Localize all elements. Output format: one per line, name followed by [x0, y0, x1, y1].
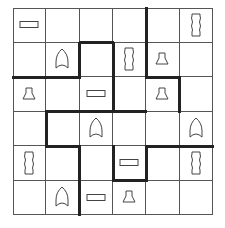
- grid-cell[interactable]: [180, 146, 213, 181]
- bar-icon: [86, 193, 106, 202]
- grid-cell[interactable]: [146, 112, 179, 147]
- bell-icon: [121, 189, 137, 205]
- grid-cell[interactable]: [113, 77, 146, 112]
- grid-cell[interactable]: [80, 146, 113, 181]
- grid-cell[interactable]: [80, 112, 113, 147]
- grid-cell[interactable]: [146, 43, 179, 78]
- region-border: [45, 110, 80, 113]
- grid-cell[interactable]: [46, 8, 79, 43]
- region-border: [78, 180, 81, 217]
- scroll-icon: [23, 151, 35, 175]
- grid-cell[interactable]: [113, 43, 146, 78]
- grid-cell[interactable]: [46, 146, 79, 181]
- grid-cell[interactable]: [13, 43, 46, 78]
- grid-cell[interactable]: [80, 8, 113, 43]
- region-border: [145, 145, 148, 182]
- arch-icon: [188, 117, 204, 139]
- region-border: [145, 145, 180, 148]
- scroll-icon: [190, 151, 202, 175]
- grid-cell[interactable]: [46, 77, 79, 112]
- region-border: [178, 76, 181, 113]
- region-border: [179, 145, 214, 148]
- grid-cell[interactable]: [46, 112, 79, 147]
- grid-cell[interactable]: [46, 181, 79, 216]
- region-border: [145, 7, 148, 44]
- region-border: [112, 110, 147, 113]
- region-border: [112, 145, 115, 182]
- grid-cell[interactable]: [13, 112, 46, 147]
- region-border: [45, 76, 80, 79]
- arch-icon: [54, 48, 70, 70]
- grid-cell[interactable]: [13, 8, 46, 43]
- grid-cell[interactable]: [146, 181, 179, 216]
- region-border: [79, 110, 114, 113]
- grid-cell[interactable]: [13, 146, 46, 181]
- region-border: [145, 76, 180, 79]
- bell-icon: [154, 86, 170, 102]
- region-border: [78, 145, 81, 182]
- grid-cell[interactable]: [180, 77, 213, 112]
- grid-cell[interactable]: [146, 8, 179, 43]
- puzzle-board: [13, 8, 213, 215]
- region-border: [78, 42, 81, 79]
- grid-cell[interactable]: [80, 43, 113, 78]
- bar-icon: [119, 158, 139, 167]
- grid-cell[interactable]: [180, 43, 213, 78]
- region-border: [112, 179, 147, 182]
- region-border: [45, 145, 80, 148]
- grid-cell[interactable]: [180, 181, 213, 216]
- bell-icon: [21, 86, 37, 102]
- region-border: [12, 76, 47, 79]
- grid-cell[interactable]: [13, 77, 46, 112]
- bar-icon: [86, 89, 106, 98]
- scroll-icon: [123, 47, 135, 71]
- bell-icon: [154, 51, 170, 67]
- grid-cell[interactable]: [113, 112, 146, 147]
- region-border: [45, 111, 48, 148]
- grid-cell[interactable]: [113, 8, 146, 43]
- grid-cell[interactable]: [113, 181, 146, 216]
- grid-cell[interactable]: [46, 43, 79, 78]
- grid-cell[interactable]: [146, 146, 179, 181]
- grid-cell[interactable]: [80, 77, 113, 112]
- arch-icon: [54, 186, 70, 208]
- grid-cell[interactable]: [113, 146, 146, 181]
- grid-cell[interactable]: [80, 181, 113, 216]
- region-border: [112, 76, 115, 113]
- grid-cell[interactable]: [13, 181, 46, 216]
- bar-icon: [19, 20, 39, 29]
- grid-cell[interactable]: [180, 112, 213, 147]
- region-border: [145, 42, 148, 79]
- grid-cell[interactable]: [146, 77, 179, 112]
- grid-cell[interactable]: [180, 8, 213, 43]
- arch-icon: [88, 117, 104, 139]
- scroll-icon: [190, 13, 202, 37]
- region-border: [112, 42, 115, 79]
- region-border: [79, 41, 114, 44]
